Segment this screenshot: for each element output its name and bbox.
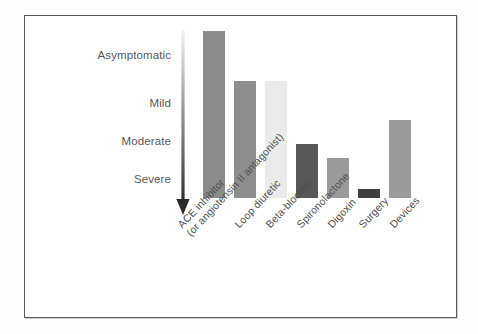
- x-axis-labels: ACE inhibitor (or angiotensin II antagon…: [25, 200, 458, 319]
- x-label-surgery: Surgery: [356, 195, 390, 231]
- bar-surgery: [358, 189, 380, 198]
- plot-area: Asymptomatic Mild Moderate Severe: [25, 16, 458, 319]
- bar-devices: [389, 120, 411, 198]
- x-label-devices: Devices: [387, 194, 422, 230]
- chart-card: Asymptomatic Mild Moderate Severe: [24, 15, 457, 318]
- chart-page: Asymptomatic Mild Moderate Severe: [0, 0, 478, 334]
